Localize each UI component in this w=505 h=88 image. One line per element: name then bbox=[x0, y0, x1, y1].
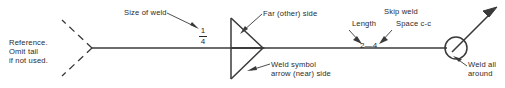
pointer-space-cc-icon bbox=[379, 30, 392, 44]
leader-arrow-icon bbox=[452, 7, 497, 52]
weld-size-numerator: 1 bbox=[196, 26, 210, 35]
value-length-space-pitch: 2—4 bbox=[360, 41, 377, 50]
label-reference-omit-tail: Reference. Omit tail if not used. bbox=[9, 38, 48, 66]
pointer-size-of-weld-icon bbox=[167, 13, 199, 29]
pointer-near-side-icon bbox=[247, 64, 270, 71]
label-weld-symbol-arrow-near-side: Weld symbol arrow (near) side bbox=[271, 60, 331, 78]
weld-size-denominator: 4 bbox=[196, 37, 210, 46]
diagram-canvas bbox=[0, 0, 505, 88]
label-far-other-side: Far (other) side bbox=[263, 9, 317, 18]
pointer-far-side-icon bbox=[240, 14, 262, 34]
value-weld-size-fraction: 1 4 bbox=[196, 26, 210, 46]
welding-symbol-diagram: Reference. Omit tail if not used. Size o… bbox=[0, 0, 505, 88]
label-size-of-weld: Size of weld bbox=[124, 8, 167, 17]
label-length: Length bbox=[352, 19, 376, 28]
label-space-center-to-center: Space c-c bbox=[396, 19, 431, 28]
tail-dashed-fork-icon bbox=[62, 20, 92, 76]
label-skip-weld: Skip weld bbox=[384, 7, 418, 16]
label-weld-all-around: Weld all around bbox=[468, 60, 496, 78]
